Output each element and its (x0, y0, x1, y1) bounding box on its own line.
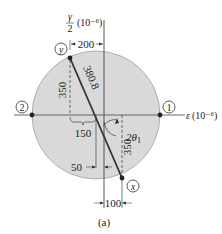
gamma-axis-unit: (10⁻⁶) (77, 17, 102, 29)
label-1: 1 (167, 103, 172, 113)
epsilon-axis-label: ε(10⁻⁶) (186, 110, 217, 122)
dim-150-label: 150 (75, 127, 92, 139)
gamma-label-den: 2 (68, 23, 73, 34)
dim-50-label: 50 (71, 161, 83, 173)
label-x: x (130, 182, 136, 192)
mohr-circle-diagram: 200 150 50 100 350 350 380.8 2θ1 y x 2 1… (0, 0, 222, 234)
point-x (120, 176, 125, 181)
figure-caption: (a) (98, 216, 111, 229)
label-2: 2 (20, 103, 25, 113)
gamma-label-num: γ (68, 11, 73, 22)
point-y (68, 56, 73, 61)
point-2 (30, 113, 35, 118)
dim-200-label: 200 (78, 38, 95, 50)
point-1 (158, 113, 163, 118)
dim-100-label: 100 (105, 197, 122, 209)
dim-350-y-label: 350 (56, 81, 68, 98)
label-y: y (58, 45, 64, 55)
